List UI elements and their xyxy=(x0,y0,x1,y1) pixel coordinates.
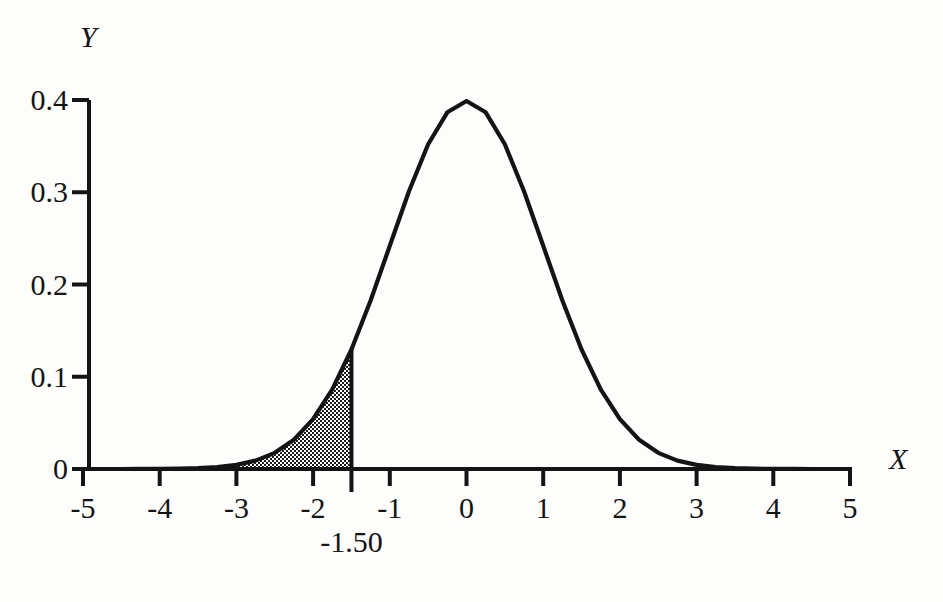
y-tick-label: 0.2 xyxy=(0,270,68,300)
x-tick-label: 2 xyxy=(612,493,627,523)
x-tick-label: -3 xyxy=(224,493,249,523)
y-tick-label: 0.1 xyxy=(0,362,68,392)
y-tick-label: 0.3 xyxy=(0,177,68,207)
x-axis-label: X xyxy=(889,444,908,474)
x-tick-label: -1 xyxy=(377,493,402,523)
x-tick-label: 1 xyxy=(536,493,551,523)
y-tick-label: 0.4 xyxy=(0,85,68,115)
density-curve xyxy=(83,101,850,469)
shaded-tail-area xyxy=(83,350,351,469)
x-tick-label: 4 xyxy=(766,493,781,523)
y-axis-label: Y xyxy=(80,22,97,52)
x-tick-label: -4 xyxy=(147,493,172,523)
x-tick-label: -2 xyxy=(301,493,326,523)
figure-canvas: Y X 00.10.20.30.4 -5-4-3-2-1012345 -1.50 xyxy=(0,0,943,602)
x-tick-label: 0 xyxy=(459,493,474,523)
y-tick-label: 0 xyxy=(0,454,68,484)
marker-value-label: -1.50 xyxy=(320,527,383,557)
x-axis-ticks xyxy=(83,469,850,486)
y-axis-ticks xyxy=(72,100,89,469)
x-tick-label: 5 xyxy=(843,493,858,523)
x-tick-label: -5 xyxy=(71,493,96,523)
x-tick-label: 3 xyxy=(689,493,704,523)
